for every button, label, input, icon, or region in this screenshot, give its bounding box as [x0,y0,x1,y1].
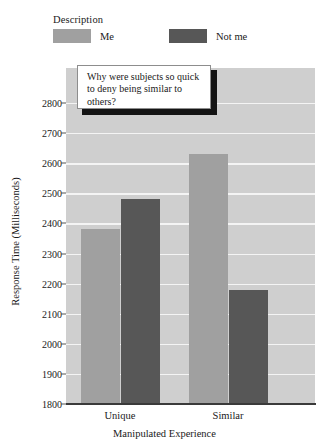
y-tick-mark [61,283,66,284]
legend-swatch-not-me [169,29,207,43]
y-axis-title: Response Time (Milliseconds) [10,142,21,342]
y-tick-label: 2700 [4,128,62,139]
bar-chart-figure: Description Me Not me 180019002000210022… [0,0,329,445]
bar-similar-not-me [229,290,268,404]
gridline [66,133,315,134]
x-axis-line [66,403,316,405]
y-tick-mark [61,253,66,254]
y-tick-mark [61,103,66,104]
bar-unique-not-me [121,199,160,404]
bar-similar-me [189,154,228,404]
bar-unique-me [81,229,120,404]
legend-entry-me: Me [53,29,114,43]
y-tick-mark [61,163,66,164]
y-tick-mark [61,133,66,134]
legend-entry-not-me: Not me [169,29,247,43]
x-group-label-unique: Unique [105,410,136,421]
x-group-label-similar: Similar [213,410,244,421]
y-tick-mark [61,343,66,344]
callout-box: Why were subjects so quick to deny being… [77,65,211,109]
y-tick-label: 1900 [4,368,62,379]
legend-label-not-me: Not me [216,31,247,42]
y-tick-mark [61,313,66,314]
y-tick-mark [61,404,66,405]
y-tick-label: 1800 [4,399,62,410]
callout-text: Why were subjects so quick to deny being… [87,71,205,108]
y-tick-label: 2800 [4,98,62,109]
x-axis-title: Manipulated Experience [0,428,329,439]
y-tick-mark [61,193,66,194]
legend-label-me: Me [100,31,114,42]
y-tick-mark [61,223,66,224]
plot-area [66,68,315,404]
y-tick-mark [61,373,66,374]
